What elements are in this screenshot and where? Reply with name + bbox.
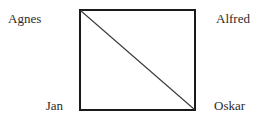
label-bottom-right: Oskar — [214, 99, 245, 112]
label-bottom-left: Jan — [0, 99, 63, 112]
diagonal-line — [79, 9, 196, 111]
diagram-canvas: Agnes Alfred Jan Oskar — [0, 0, 273, 122]
square-group — [79, 9, 196, 111]
label-top-left: Agnes — [8, 12, 41, 25]
label-top-right: Alfred — [216, 12, 250, 25]
